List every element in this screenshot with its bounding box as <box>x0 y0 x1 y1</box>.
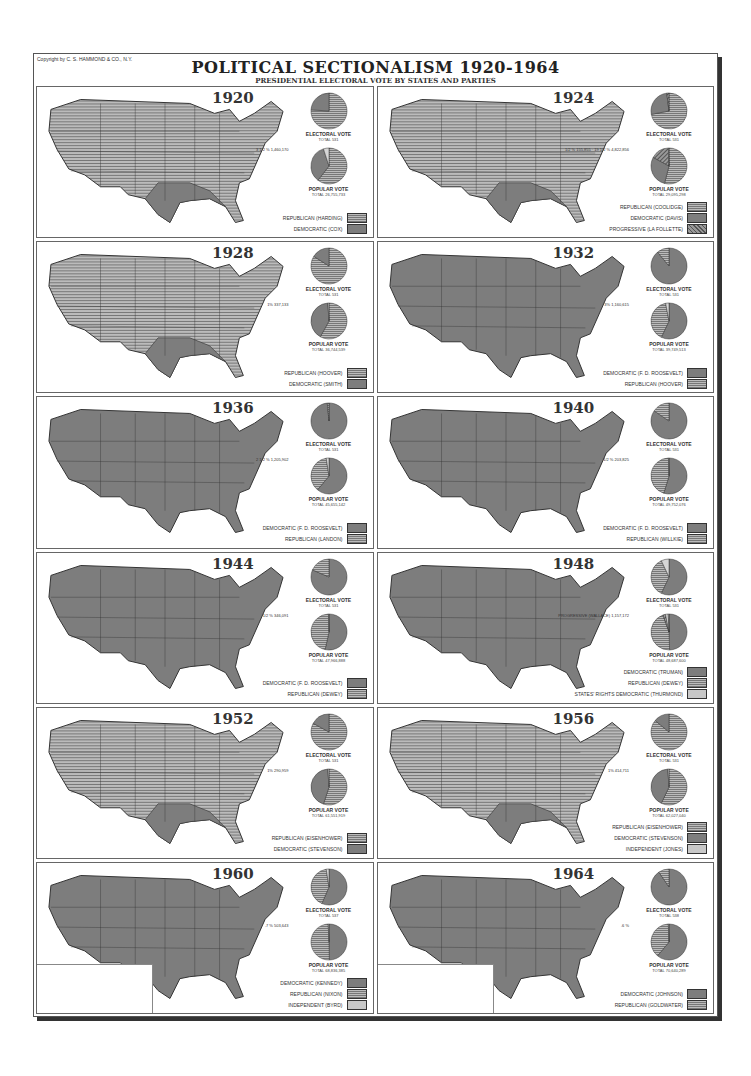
legend-label: DEMOCRATIC (F. D. ROOSEVELT) <box>263 525 343 531</box>
pie-charts: ELECTORAL VOTE TOTAL 531 POPULAR VOTE TO… <box>631 401 707 507</box>
legend-swatch <box>687 224 707 234</box>
pie-charts: ELECTORAL VOTE TOTAL 537 POPULAR VOTE TO… <box>291 867 367 973</box>
legend-swatch <box>347 523 367 533</box>
minor-vote-note: 1% 414,711 <box>608 768 629 773</box>
legend-label: REPUBLICAN (DEWEY) <box>628 680 683 686</box>
legend-label: REPUBLICAN (DEWEY) <box>287 691 342 697</box>
pie-charts: ELECTORAL VOTE TOTAL 531 POPULAR VOTE TO… <box>631 557 707 663</box>
legend-item: DEMOCRATIC (F. D. ROOSEVELT) <box>263 523 367 534</box>
panel-year: 1928 <box>212 244 254 262</box>
legend-item: REPUBLICAN (LANDON) <box>263 534 367 545</box>
electoral-vote-pie <box>291 712 367 752</box>
panel-year: 1936 <box>212 399 254 417</box>
legend: DEMOCRATIC (F. D. ROOSEVELT)REPUBLICAN (… <box>263 678 367 700</box>
legend-label: REPUBLICAN (HARDING) <box>283 215 343 221</box>
legend-label: PROGRESSIVE (LA FOLLETTE) <box>609 226 683 232</box>
popular-vote-total: TOTAL 49,752,076 <box>631 502 707 507</box>
popular-vote-total: TOTAL 45,655,142 <box>291 502 367 507</box>
pie-charts: ELECTORAL VOTE TOTAL 531 POPULAR VOTE TO… <box>291 91 367 197</box>
pie-charts: ELECTORAL VOTE TOTAL 538 POPULAR VOTE TO… <box>631 867 707 973</box>
panel-1932: 1932 ELECTORAL VOTE TOTAL 531 POPULAR VO… <box>377 241 715 393</box>
popular-vote-total: TOTAL 70,640,289 <box>631 968 707 973</box>
legend-item: DEMOCRATIC (TRUMAN) <box>575 667 707 678</box>
legend-label: REPUBLICAN (WILLKIE) <box>627 536 683 542</box>
us-map <box>382 712 630 852</box>
legend-item: DEMOCRATIC (F. D. ROOSEVELT) <box>263 678 367 689</box>
panel-year: 1944 <box>212 555 254 573</box>
popular-vote-pie <box>291 301 367 341</box>
legend: DEMOCRATIC (F. D. ROOSEVELT)REPUBLICAN (… <box>603 523 707 545</box>
legend-swatch <box>347 689 367 699</box>
legend: DEMOCRATIC (TRUMAN)REPUBLICAN (DEWEY)STA… <box>575 667 707 700</box>
legend-swatch <box>687 368 707 378</box>
legend-label: REPUBLICAN (COOLIDGE) <box>620 204 683 210</box>
pie-charts: ELECTORAL VOTE TOTAL 531 POPULAR VOTE TO… <box>291 557 367 663</box>
legend-swatch <box>347 213 367 223</box>
legend: REPUBLICAN (HARDING)DEMOCRATIC (COX) <box>283 212 367 234</box>
pie-charts: ELECTORAL VOTE TOTAL 531 POPULAR VOTE TO… <box>631 246 707 352</box>
map-sheet: Copyright by C. S. HAMMOND & CO., N.Y. P… <box>33 53 718 1017</box>
us-map <box>382 91 630 231</box>
legend: DEMOCRATIC (F. D. ROOSEVELT)REPUBLICAN (… <box>263 523 367 545</box>
panel-1964: 1964 ELECTORAL VOTE TOTAL 538 POPULAR VO… <box>377 862 715 1014</box>
legend-item: DEMOCRATIC (COX) <box>283 223 367 234</box>
legend-label: DEMOCRATIC (TRUMAN) <box>624 669 683 675</box>
legend-item: REPUBLICAN (WILLKIE) <box>603 534 707 545</box>
legend: DEMOCRATIC (F. D. ROOSEVELT)REPUBLICAN (… <box>603 367 707 389</box>
legend-label: REPUBLICAN (LANDON) <box>285 536 343 542</box>
legend-swatch <box>347 844 367 854</box>
legend-swatch <box>347 978 367 988</box>
legend-swatch <box>687 989 707 999</box>
popular-vote-pie <box>291 456 367 496</box>
legend-label: REPUBLICAN (NIXON) <box>290 991 343 997</box>
minor-vote-note: 3% 1,160,615 <box>604 302 629 307</box>
electoral-vote-pie <box>291 557 367 597</box>
legend-label: INDEPENDENT (JONES) <box>626 846 683 852</box>
electoral-vote-pie <box>631 246 707 286</box>
legend-label: DEMOCRATIC (STEVENSON) <box>614 835 683 841</box>
electoral-vote-pie <box>631 867 707 907</box>
legend-swatch <box>687 523 707 533</box>
page-subtitle: PRESIDENTIAL ELECTORAL VOTE BY STATES AN… <box>34 76 717 85</box>
popular-vote-pie <box>291 612 367 652</box>
legend-item: PROGRESSIVE (LA FOLLETTE) <box>609 223 707 234</box>
legend: REPUBLICAN (HOOVER)DEMOCRATIC (SMITH) <box>284 367 366 389</box>
legend-label: REPUBLICAN (HOOVER) <box>284 370 342 376</box>
legend-item: REPUBLICAN (EISENHOWER) <box>272 833 367 844</box>
popular-vote-total: TOTAL 48,687,600 <box>631 658 707 663</box>
popular-vote-total: TOTAL 29,095,298 <box>631 192 707 197</box>
legend-item: REPUBLICAN (HARDING) <box>283 212 367 223</box>
panel-1952: 1952 ELECTORAL VOTE TOTAL 531 POPULAR VO… <box>36 707 374 859</box>
minor-vote-note: PROGRESSIVE (WALLACE) 1,157,172 <box>558 613 629 618</box>
panel-grid: 1920 ELECTORAL VOTE TOTAL 531 POPULAR VO… <box>36 86 714 1014</box>
legend-swatch <box>687 202 707 212</box>
legend-swatch <box>347 379 367 389</box>
page-title: POLITICAL SECTIONALISM 1920-1964 <box>34 58 717 77</box>
legend-item: DEMOCRATIC (STEVENSON) <box>272 844 367 855</box>
legend-item: REPUBLICAN (EISENHOWER) <box>612 822 707 833</box>
legend: REPUBLICAN (COOLIDGE)DEMOCRATIC (DAVIS)P… <box>609 201 707 234</box>
legend-swatch <box>347 833 367 843</box>
minor-vote-note: 2 1/2 % 1,205,902 <box>256 457 288 462</box>
popular-vote-pie <box>291 767 367 807</box>
popular-vote-pie <box>631 301 707 341</box>
electoral-vote-pie <box>631 91 707 131</box>
legend-item: DEMOCRATIC (KENNEDY) <box>280 977 366 988</box>
popular-vote-pie <box>291 922 367 962</box>
legend-item: REPUBLICAN (NIXON) <box>280 988 366 999</box>
panel-1948: 1948 ELECTORAL VOTE TOTAL 531 POPULAR VO… <box>377 552 715 704</box>
panel-year: 1932 <box>553 244 595 262</box>
legend-item: DEMOCRATIC (DAVIS) <box>609 212 707 223</box>
legend: REPUBLICAN (EISENHOWER)DEMOCRATIC (STEVE… <box>612 822 707 855</box>
legend-item: DEMOCRATIC (STEVENSON) <box>612 833 707 844</box>
minor-vote-note: .6 % <box>621 923 629 928</box>
us-map <box>41 91 289 231</box>
legend: DEMOCRATIC (JOHNSON)REPUBLICAN (GOLDWATE… <box>615 988 707 1010</box>
panel-1924: 1924 ELECTORAL VOTE TOTAL 531 POPULAR VO… <box>377 86 715 238</box>
panel-year: 1948 <box>553 555 595 573</box>
us-map <box>41 712 289 852</box>
legend-item: REPUBLICAN (HOOVER) <box>284 367 366 378</box>
alaska-hawaii-inset <box>37 964 153 1013</box>
legend-label: DEMOCRATIC (F. D. ROOSEVELT) <box>603 525 683 531</box>
panel-year: 1952 <box>212 710 254 728</box>
